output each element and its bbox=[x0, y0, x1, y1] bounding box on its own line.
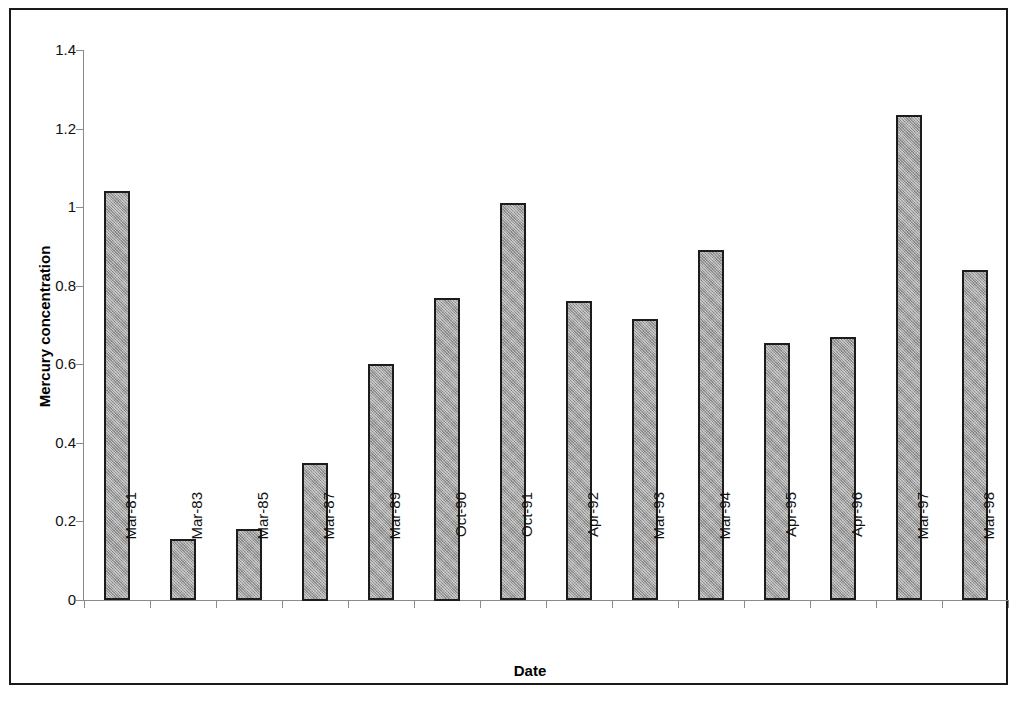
x-axis-category-label: Mar-87 bbox=[321, 492, 336, 612]
y-axis-tick bbox=[76, 129, 84, 130]
x-axis-tick bbox=[744, 600, 745, 608]
y-axis-tick bbox=[76, 600, 84, 601]
x-axis-category-label: Mar-81 bbox=[123, 492, 138, 612]
x-axis-tick bbox=[942, 600, 943, 608]
y-axis-tick-label: 1.2 bbox=[16, 121, 76, 136]
x-axis-tick bbox=[216, 600, 217, 608]
y-axis-tick bbox=[76, 50, 84, 51]
y-axis-tick bbox=[76, 521, 84, 522]
x-axis-category-label: Oct-91 bbox=[519, 492, 534, 612]
x-axis-category-label: Mar-94 bbox=[717, 492, 732, 612]
y-axis-tick-label: 0 bbox=[16, 592, 76, 607]
y-axis-tick bbox=[76, 443, 84, 444]
x-axis-category-label: Mar-97 bbox=[915, 492, 930, 612]
y-axis-tick-label: 0.2 bbox=[16, 513, 76, 528]
x-axis-category-label: Mar-98 bbox=[981, 492, 996, 612]
y-axis-tick bbox=[76, 286, 84, 287]
y-axis-tick bbox=[76, 364, 84, 365]
x-axis-category-label: Mar-89 bbox=[387, 492, 402, 612]
y-axis-title: Mercury concentration bbox=[36, 207, 53, 447]
y-axis-line bbox=[83, 50, 84, 601]
x-axis-category-label: Mar-83 bbox=[189, 492, 204, 612]
x-axis-tick bbox=[1008, 600, 1009, 608]
x-axis-category-label: Apr-96 bbox=[849, 492, 864, 612]
x-axis-category-label: Oct-90 bbox=[453, 492, 468, 612]
figure: 00.20.40.60.811.21.4 Mar-81Mar-83Mar-85M… bbox=[0, 0, 1019, 710]
x-axis-tick bbox=[348, 600, 349, 608]
y-axis-tick-label: 1.4 bbox=[16, 42, 76, 57]
x-axis-tick bbox=[150, 600, 151, 608]
x-axis-tick bbox=[282, 600, 283, 608]
x-axis-tick bbox=[84, 600, 85, 608]
x-axis-tick bbox=[876, 600, 877, 608]
y-axis-tick bbox=[76, 207, 84, 208]
x-axis-category-label: Apr-92 bbox=[585, 492, 600, 612]
x-axis-tick bbox=[810, 600, 811, 608]
x-axis-category-label: Mar-93 bbox=[651, 492, 666, 612]
x-axis-tick bbox=[480, 600, 481, 608]
x-axis-tick bbox=[414, 600, 415, 608]
x-axis-title: Date bbox=[470, 662, 590, 679]
x-axis-category-label: Apr-95 bbox=[783, 492, 798, 612]
x-axis-tick bbox=[678, 600, 679, 608]
x-axis-category-label: Mar-85 bbox=[255, 492, 270, 612]
x-axis-tick bbox=[546, 600, 547, 608]
x-axis-tick bbox=[612, 600, 613, 608]
